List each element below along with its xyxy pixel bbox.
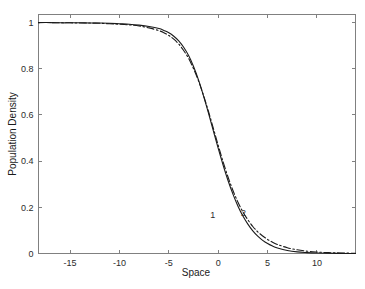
x-tick-label: 0 bbox=[216, 258, 221, 268]
y-tick-label: 0.2 bbox=[21, 203, 34, 213]
plot-box bbox=[39, 15, 356, 254]
axis-tick-labels: -15-10-5051000.20.40.60.81 bbox=[21, 18, 322, 268]
curve-annotations: 12 bbox=[210, 208, 246, 220]
x-tick-label: 10 bbox=[312, 258, 322, 268]
plot-axes bbox=[39, 15, 356, 254]
y-tick-label: 0.4 bbox=[21, 156, 34, 166]
y-tick-label: 1 bbox=[28, 18, 33, 28]
x-tick-label: -15 bbox=[64, 258, 77, 268]
x-axis-title: Space bbox=[182, 267, 211, 278]
x-tick-label: 5 bbox=[265, 258, 270, 268]
curve-label-2: 2 bbox=[241, 208, 246, 218]
y-tick-label: 0.8 bbox=[21, 64, 34, 74]
data-series bbox=[39, 23, 356, 254]
x-tick-label: -10 bbox=[113, 258, 126, 268]
y-axis-title: Population Density bbox=[7, 92, 18, 175]
x-tick-label: -5 bbox=[165, 258, 173, 268]
series-curve-2 bbox=[39, 23, 356, 254]
series-curve-1 bbox=[39, 23, 356, 254]
curve-label-1: 1 bbox=[210, 210, 215, 220]
axis-ticks bbox=[39, 15, 356, 254]
chart-canvas: -15-10-5051000.20.40.60.81 12 Space Popu… bbox=[0, 0, 365, 289]
y-tick-label: 0 bbox=[28, 249, 33, 259]
chart-figure: -15-10-5051000.20.40.60.81 12 Space Popu… bbox=[0, 0, 365, 289]
y-tick-label: 0.6 bbox=[21, 110, 34, 120]
